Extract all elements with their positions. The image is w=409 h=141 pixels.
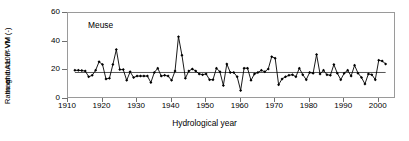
data-point bbox=[225, 62, 228, 65]
data-point bbox=[246, 67, 249, 70]
y-axis-title-line-3: and A10P-VM (-) bbox=[3, 27, 12, 84]
data-point bbox=[118, 68, 121, 71]
data-point bbox=[122, 68, 125, 71]
chart-figure: Ratio of magnitude of VM and A10P-VM (-)… bbox=[0, 0, 409, 141]
y-tick-label: 60 bbox=[38, 7, 60, 16]
x-tick-label: 2000 bbox=[363, 101, 393, 110]
data-point bbox=[80, 69, 83, 72]
data-point bbox=[125, 79, 128, 82]
data-point bbox=[115, 48, 118, 51]
data-point bbox=[329, 74, 332, 77]
data-point bbox=[177, 35, 180, 38]
x-tick-label: 1950 bbox=[190, 101, 220, 110]
x-tick-label: 1970 bbox=[259, 101, 289, 110]
data-point bbox=[212, 78, 215, 81]
data-point bbox=[377, 59, 380, 62]
data-point bbox=[332, 63, 335, 66]
x-tick-label: 1960 bbox=[225, 101, 255, 110]
data-point bbox=[111, 63, 114, 66]
data-point bbox=[77, 69, 80, 72]
y-tick-label: 20 bbox=[38, 64, 60, 73]
data-point bbox=[73, 69, 76, 72]
data-point-markers bbox=[73, 35, 387, 92]
plot-area: Meuse bbox=[67, 12, 395, 98]
data-point bbox=[139, 75, 142, 78]
data-point bbox=[243, 67, 246, 70]
data-point bbox=[353, 64, 356, 67]
x-tick-label: 1990 bbox=[328, 101, 358, 110]
data-point bbox=[287, 74, 290, 77]
data-point bbox=[201, 73, 204, 76]
data-point bbox=[270, 55, 273, 58]
data-point bbox=[274, 57, 277, 60]
data-series-plot bbox=[68, 13, 396, 99]
y-tick-label: 40 bbox=[38, 36, 60, 45]
data-point bbox=[180, 54, 183, 57]
data-point bbox=[184, 77, 187, 80]
data-point bbox=[222, 84, 225, 87]
data-point bbox=[315, 53, 318, 56]
x-tick-label: 1910 bbox=[52, 101, 82, 110]
x-tick-label: 1920 bbox=[87, 101, 117, 110]
data-point bbox=[239, 89, 242, 92]
x-tick-label: 1930 bbox=[121, 101, 151, 110]
data-line bbox=[75, 37, 386, 91]
data-point bbox=[163, 74, 166, 77]
data-point bbox=[136, 75, 139, 78]
x-axis-title: Hydrological year bbox=[0, 118, 409, 128]
data-point bbox=[108, 77, 111, 80]
data-point bbox=[308, 71, 311, 74]
x-tick-label: 1940 bbox=[156, 101, 186, 110]
data-point bbox=[229, 71, 232, 74]
data-point bbox=[160, 75, 163, 78]
data-point bbox=[104, 77, 107, 80]
x-tick-label: 1980 bbox=[294, 101, 324, 110]
data-point bbox=[142, 75, 145, 78]
